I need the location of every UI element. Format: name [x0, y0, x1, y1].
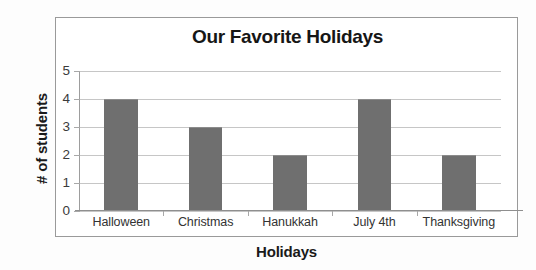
gridline [79, 211, 501, 212]
y-tick-label: 0 [62, 204, 70, 218]
bar-series [79, 71, 501, 211]
y-tick-label: 4 [62, 92, 70, 106]
bar [104, 99, 138, 211]
chart-title: Our Favorite Holidays [56, 26, 519, 48]
x-axis-category-label: Hanukkah [248, 215, 332, 229]
worksheet-page: # of students Our Favorite Holidays 5432… [0, 0, 536, 270]
x-axis-category-label: July 4th [332, 215, 416, 229]
y-tick-label: 3 [62, 120, 70, 134]
x-axis-category-label: Thanksgiving [417, 215, 501, 229]
x-axis-category-labels: HalloweenChristmasHanukkahJuly 4thThanks… [79, 215, 501, 229]
bar [273, 155, 307, 211]
y-tick-mark [74, 211, 80, 212]
bar [442, 155, 476, 211]
bar-slot [417, 71, 501, 211]
bar [189, 127, 223, 211]
x-axis-category-label: Halloween [79, 215, 163, 229]
y-tick-label: 2 [62, 148, 70, 162]
bar [358, 99, 392, 211]
bar-slot [248, 71, 332, 211]
y-axis-title: # of students [33, 59, 50, 219]
x-axis-category-label: Christmas [163, 215, 247, 229]
bar-slot [79, 71, 163, 211]
y-tick-label: 1 [62, 176, 70, 190]
bar-slot [332, 71, 416, 211]
x-axis-line [75, 210, 523, 212]
plot-area: 543210 [79, 71, 501, 211]
bar-slot [163, 71, 247, 211]
chart-frame: Our Favorite Holidays 543210 HalloweenCh… [55, 17, 518, 237]
x-axis-title: Holidays [55, 243, 518, 260]
y-tick-label: 5 [62, 64, 70, 78]
